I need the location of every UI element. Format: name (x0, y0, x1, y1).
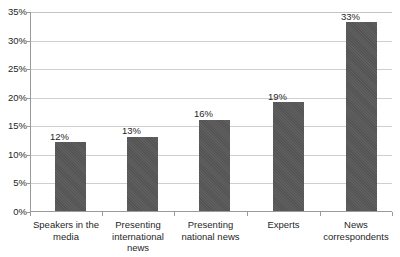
y-tick-label-15: 15% (0, 121, 27, 131)
x-category-label-line: Presenting (174, 219, 247, 231)
bar-value-news-correspondents: 33% (325, 11, 376, 22)
x-category-label-speakers-in-the-media: Speakers in the media (30, 219, 102, 242)
bar-news-correspondents (346, 22, 377, 211)
x-tick-mark-4 (320, 212, 321, 216)
y-tick-label-30: 30% (0, 36, 27, 46)
y-tick-label-35: 35% (0, 7, 27, 17)
bar-chart: 35% 30% 25% 20% 15% 10% 5% 0% 12% 13% 16… (0, 0, 400, 257)
x-category-label-presenting-international-news: Presenting international news (102, 219, 174, 254)
x-category-label-line: national news (174, 231, 247, 243)
bar-value-presenting-national-news: 16% (178, 108, 229, 119)
x-tick-mark-2 (174, 212, 175, 216)
y-tick-label-5: 5% (0, 178, 27, 188)
gridline-30 (31, 41, 392, 42)
bar-speakers-in-the-media (55, 142, 86, 211)
x-tick-mark-3 (247, 212, 248, 216)
y-tick-label-10: 10% (0, 150, 27, 160)
gridline-20 (31, 98, 392, 99)
x-category-label-experts: Experts (247, 219, 320, 231)
y-tick-label-20: 20% (0, 93, 27, 103)
y-tick-label-0: 0% (0, 207, 27, 217)
x-category-label-line: correspondents (320, 231, 392, 243)
bar-value-speakers-in-the-media: 12% (34, 131, 85, 142)
y-tick-label-25: 25% (0, 64, 27, 74)
x-category-label-line: Experts (247, 219, 320, 231)
bar-value-presenting-international-news: 13% (106, 125, 157, 136)
x-tick-mark-1 (102, 212, 103, 216)
x-category-label-line: Speakers in the (30, 219, 102, 231)
gridline-25 (31, 69, 392, 70)
x-category-label-line: international (102, 231, 174, 243)
x-category-label-line: news (102, 242, 174, 254)
x-category-label-line: media (30, 231, 102, 243)
bar-presenting-national-news (199, 120, 230, 211)
x-tick-mark-5 (392, 212, 393, 216)
bar-presenting-international-news (127, 137, 158, 211)
x-category-label-news-correspondents: News correspondents (320, 219, 392, 242)
x-category-label-line: Presenting (102, 219, 174, 231)
bar-experts (273, 102, 304, 211)
x-category-label-presenting-national-news: Presenting national news (174, 219, 247, 242)
bar-value-experts: 19% (252, 91, 303, 102)
x-tick-mark-0 (30, 212, 31, 216)
x-category-label-line: News (320, 219, 392, 231)
